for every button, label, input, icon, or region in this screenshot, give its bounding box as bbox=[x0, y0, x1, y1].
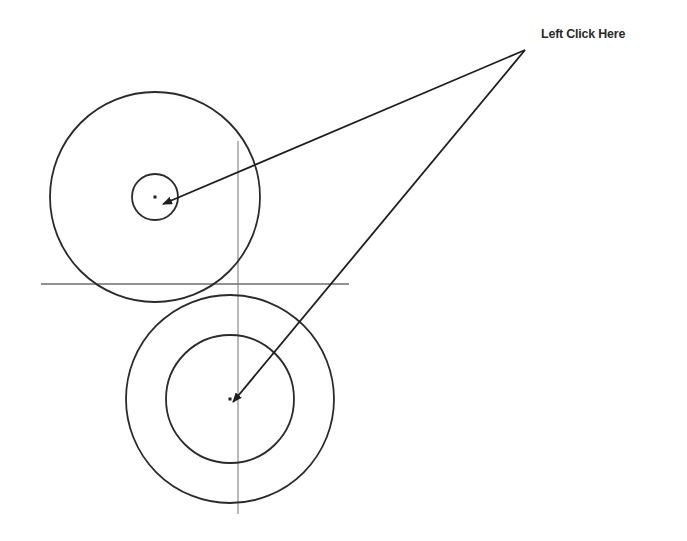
upper-left-circle-group bbox=[50, 92, 260, 302]
lower-center-point bbox=[229, 398, 232, 401]
upper-center-point bbox=[154, 196, 157, 199]
diagram-canvas bbox=[0, 0, 687, 541]
callout-label: Left Click Here bbox=[541, 26, 625, 41]
callout-arrow-lower bbox=[233, 50, 525, 402]
lower-circle-group bbox=[126, 295, 334, 503]
callout-arrow-upper bbox=[163, 50, 525, 204]
